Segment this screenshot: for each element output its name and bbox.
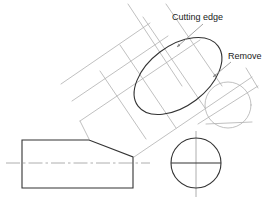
drawing-svg: Cutting edge Remove xyxy=(0,0,275,203)
center-lines-group xyxy=(6,131,196,197)
remove-label: Remove xyxy=(228,51,262,61)
end-circle-tangent-right xyxy=(246,68,258,88)
construction-oblique-1 xyxy=(61,23,150,84)
remove-leader xyxy=(213,62,231,77)
construction-lines-group xyxy=(61,4,258,157)
cutting-plane-ellipse xyxy=(120,22,236,130)
construction-cross-2 xyxy=(120,45,176,128)
construction-oblique-2 xyxy=(72,36,168,101)
technical-drawing-canvas: Cutting edge Remove xyxy=(0,0,275,203)
cutting-edge-label: Cutting edge xyxy=(172,12,223,22)
base-block-outline xyxy=(22,140,133,188)
end-circle-axis xyxy=(198,86,258,124)
cutting-edge-leader xyxy=(177,24,203,47)
projection-from-chamfer xyxy=(80,121,89,139)
cylinder-edge-lower-right xyxy=(134,77,252,157)
